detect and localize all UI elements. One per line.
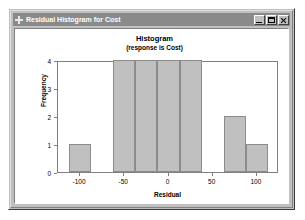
minimize-button[interactable] — [254, 15, 265, 25]
histogram-bar — [224, 116, 246, 172]
histogram-bar — [157, 60, 179, 172]
x-tick-mark — [256, 173, 257, 176]
chart-subtitle: (response is Cost) — [15, 43, 289, 52]
y-tick-label: 4 — [25, 58, 51, 65]
window-client-area: Histogram (response is Cost) Frequency 0… — [14, 28, 289, 204]
x-axis-label: Residual — [57, 191, 278, 198]
y-tick-label: 3 — [25, 86, 51, 93]
maximize-button[interactable] — [266, 15, 277, 25]
histogram-bar — [135, 60, 157, 172]
y-tick-label: 0 — [25, 170, 51, 177]
window-title: Residual Histogram for Cost — [26, 13, 254, 26]
y-tick-label: 1 — [25, 142, 51, 149]
histogram-bar — [69, 144, 91, 172]
x-tick-label: 50 — [197, 178, 227, 185]
x-tick-label: -100 — [64, 178, 94, 185]
x-tick-mark — [212, 173, 213, 176]
crosshair-icon — [15, 16, 23, 24]
close-button[interactable] — [278, 15, 289, 25]
y-tick-mark — [54, 173, 57, 174]
plot-area — [57, 61, 278, 173]
histogram-bar — [180, 60, 202, 172]
x-tick-label: 100 — [241, 178, 271, 185]
window-controls — [254, 15, 289, 25]
x-tick-mark — [168, 173, 169, 176]
chart-window: Residual Histogram for Cost Histogram (r… — [8, 8, 295, 210]
x-tick-label: 0 — [153, 178, 183, 185]
histogram-chart: Histogram (response is Cost) Frequency 0… — [15, 29, 289, 204]
histogram-bars — [58, 62, 277, 172]
x-tick-mark — [79, 173, 80, 176]
x-tick-label: -50 — [108, 178, 138, 185]
histogram-bar — [246, 144, 268, 172]
histogram-bar — [113, 60, 135, 172]
x-tick-mark — [123, 173, 124, 176]
window-titlebar[interactable]: Residual Histogram for Cost — [13, 13, 290, 26]
chart-title: Histogram — [15, 34, 289, 43]
desktop-background: Residual Histogram for Cost Histogram (r… — [0, 0, 305, 220]
window-inner-bevel: Residual Histogram for Cost Histogram (r… — [10, 10, 293, 208]
y-tick-label: 2 — [25, 114, 51, 121]
